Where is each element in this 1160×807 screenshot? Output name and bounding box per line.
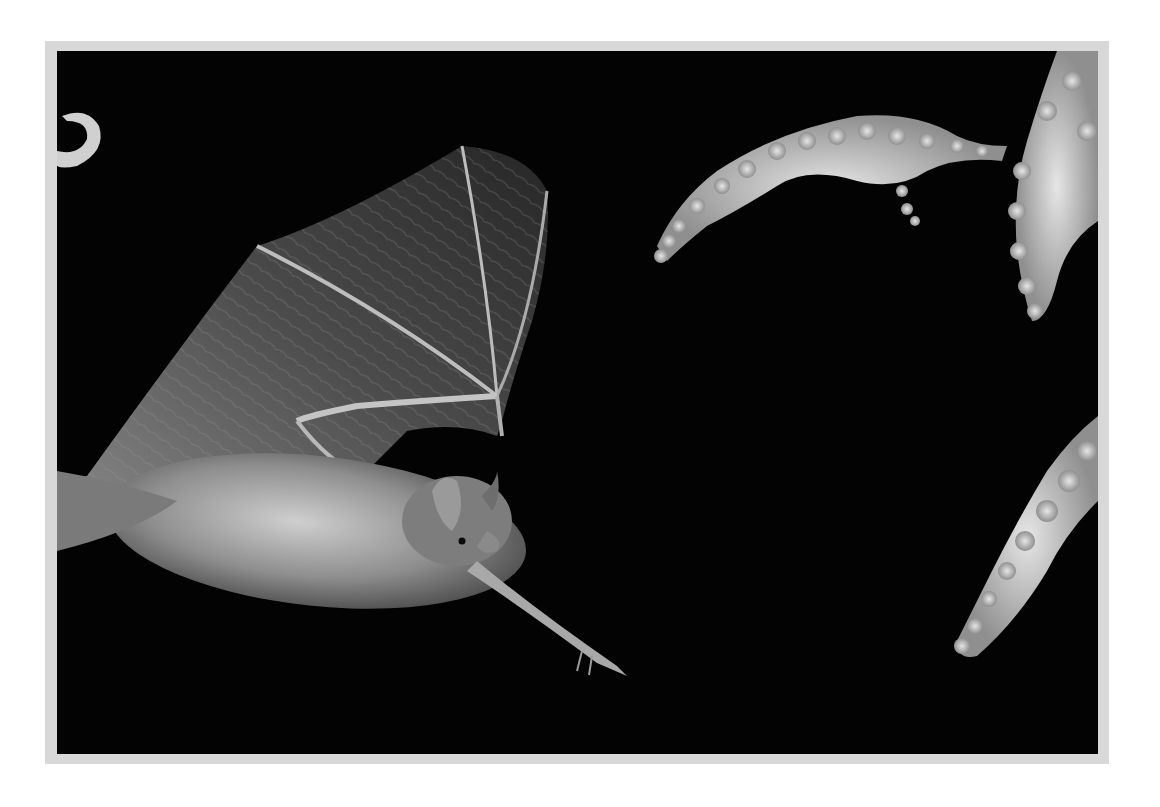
flower-spray-top-left	[654, 115, 1007, 263]
photo-frame	[45, 41, 1109, 764]
photo-illustration	[57, 51, 1098, 754]
flower-spray-top-right	[1008, 51, 1098, 321]
crescent-shape	[57, 113, 101, 168]
bat-photograph	[57, 51, 1098, 754]
flower-spray-bottom-right	[954, 416, 1098, 657]
